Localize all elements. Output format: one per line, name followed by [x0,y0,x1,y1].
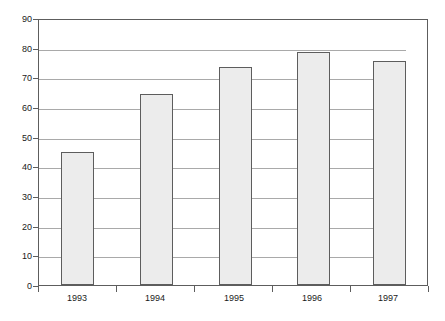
bar-1997 [373,61,406,285]
y-axis-tick-label: 80 [0,45,32,54]
y-axis-tick-label: 10 [0,252,32,261]
x-axis-label-1997: 1997 [358,293,418,303]
bar-1996 [297,52,330,285]
x-axis-label-1996: 1996 [282,293,342,303]
bar-1995 [219,67,252,285]
bar-1993 [61,152,94,285]
x-axis-tick [194,286,195,292]
y-axis-tick-label: 50 [0,134,32,143]
plot-area [38,19,428,286]
x-axis-tick [38,286,39,292]
x-axis-label-1994: 1994 [125,293,185,303]
y-axis-tick-label: 20 [0,223,32,232]
x-axis-tick [428,286,429,292]
x-axis-tick [116,286,117,292]
x-axis-label-1995: 1995 [204,293,264,303]
x-axis-label-1993: 1993 [47,293,107,303]
y-axis-tick-label: 0 [0,282,32,291]
x-axis-tick [350,286,351,292]
gridline-80 [39,50,406,51]
x-axis-tick [272,286,273,292]
y-axis-tick-label: 60 [0,104,32,113]
y-axis-tick-label: 30 [0,193,32,202]
y-axis-tick-label: 90 [0,15,32,24]
bar-chart: 90 80 70 60 50 40 30 20 10 0 [0,0,445,321]
y-axis-tick-label: 40 [0,163,32,172]
y-axis-tick-label: 70 [0,74,32,83]
bar-1994 [140,94,173,285]
